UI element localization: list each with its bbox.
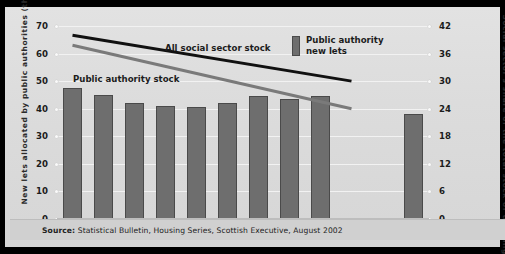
y-axis-left-tick-label: 60 xyxy=(36,49,48,59)
legend-label-line2: new lets xyxy=(306,46,384,57)
annotation-all-social-sector-stock: All social sector stock xyxy=(165,43,271,53)
y-axis-left-tick-label: 50 xyxy=(36,76,48,86)
y-axis-right-tick-label: 12 xyxy=(439,159,451,169)
y-axis-right-tick-label: 36 xyxy=(439,49,451,59)
source-prefix: Source: xyxy=(42,226,75,235)
source-bar: Source: Statistical Bulletin, Housing Se… xyxy=(10,219,505,240)
chart-panel: New lets allocated by public authorities… xyxy=(5,7,500,247)
source-body: Statistical Bulletin, Housing Series, Sc… xyxy=(78,226,343,235)
y-axis-left-tick-label: 30 xyxy=(36,131,48,141)
legend-swatch-bar-icon xyxy=(292,36,300,56)
legend-entry-label: Public authority new lets xyxy=(306,35,384,57)
y-axis-left-tick-label: 40 xyxy=(36,104,48,114)
source-note: Source: Statistical Bulletin, Housing Se… xyxy=(42,226,343,235)
y-axis-right-title: Social sector's share of the total stock… xyxy=(501,15,505,205)
y-axis-left-title: New lets allocated by public authorities… xyxy=(20,15,29,205)
y-axis-right-tick-label: 42 xyxy=(439,21,451,31)
legend-label-line1: Public authority xyxy=(306,35,384,46)
chart-legend: Public authority new lets xyxy=(292,35,384,57)
chart-frame: New lets allocated by public authorities… xyxy=(0,0,505,254)
y-axis-right-tick-label: 18 xyxy=(439,131,451,141)
y-axis-left-tick-label: 70 xyxy=(36,21,48,31)
y-axis-right-tick-label: 24 xyxy=(439,104,451,114)
y-axis-right-tick-label: 6 xyxy=(439,186,445,196)
y-axis-left-tick-label: 10 xyxy=(36,186,48,196)
y-axis-right-tick-label: 30 xyxy=(439,76,451,86)
annotation-public-authority-stock: Public authority stock xyxy=(73,74,179,84)
y-axis-left-tick-label: 20 xyxy=(36,159,48,169)
